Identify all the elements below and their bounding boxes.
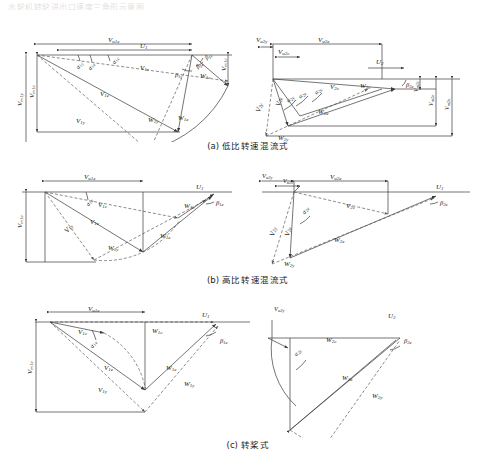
figure-page: 水轮机转轮进出口速度三角形示意图 <box>0 0 496 463</box>
label-b-w1y: W1y <box>108 244 119 252</box>
label-w1y: W1y <box>148 116 159 124</box>
label-b-w1e: W1e <box>160 232 171 240</box>
label-vm1y: Vm1y <box>16 93 24 106</box>
label-vu1e: Vu1e <box>108 36 120 44</box>
label-vm2e: Vm2e <box>428 95 435 106</box>
page-header-faint: 水轮机转轮进出口速度三角形示意图 <box>8 1 488 10</box>
label-alpha2c: α2c <box>313 86 323 96</box>
caption-a-tag: (a) <box>207 141 219 151</box>
label-b-w2e: W2e <box>334 236 345 244</box>
label-c-vu2y: Vu2y <box>274 305 284 313</box>
label-b-vm1e: Vm1e <box>16 215 24 228</box>
caption-c: (c) 转桨式 <box>0 438 496 450</box>
label-b-w2y: W2y <box>284 260 295 268</box>
label-c-w1e: W1e <box>166 364 177 372</box>
caption-b-tag: (b) <box>207 275 219 285</box>
label-b-v1y: V1y <box>63 222 75 235</box>
label-b-v1e: V1e <box>90 218 100 226</box>
label-beta1y: β1y <box>174 72 182 79</box>
label-beta2e: β2e <box>405 81 414 89</box>
label-b-beta2e: β2e <box>439 199 448 207</box>
label-b-vu2y: Vu2y <box>262 172 272 180</box>
caption-b-text: 高比转速混流式 <box>222 275 289 285</box>
label-c-beta2e: β2e <box>403 337 412 345</box>
label-c-beta1e: β1e <box>219 337 228 345</box>
label-alpha1e: α1e <box>87 62 97 72</box>
label-alpha1y: α1y <box>75 61 85 71</box>
panel-c-kaplan: Vu1e Vm1e U1 V1c V1e V1y W1c W1e W1y α1e… <box>0 300 496 438</box>
caption-a: (a) 低比转速混流式 <box>0 139 496 151</box>
label-w1c: W1c <box>200 72 211 80</box>
label-alpha1c: α1c <box>111 56 121 66</box>
label-v1e: V1e <box>100 90 110 98</box>
label-vu2c: Vu2c <box>278 48 290 56</box>
panel-b-high-specific-speed: Vu1e Vm1e U1 V1c V1e V1y W1c W1e W1y α1e… <box>0 160 496 272</box>
label-vm1e: Vm1e <box>28 85 36 98</box>
label-c-u2: U2 <box>388 312 396 320</box>
label-vm2y: Vm2y <box>444 99 451 110</box>
label-c-u1: U1 <box>202 311 210 319</box>
label-v2e: V2e <box>274 95 285 107</box>
label-c-vu1e: Vu1e <box>88 305 100 313</box>
label-c-vm1e: Vm1e <box>26 361 34 374</box>
caption-a-text: 低比转速混流式 <box>222 141 289 151</box>
label-vu2y: Vu2y <box>256 36 268 44</box>
label-w2e: W2e <box>318 108 329 116</box>
label-b-alpha1e: α1e <box>85 198 95 208</box>
caption-b: (b) 高比转速混流式 <box>0 273 496 285</box>
caption-c-tag: (c) <box>227 440 238 450</box>
label-b-vu2c: Vu2c <box>283 178 293 185</box>
label-b-vu1e: Vu1e <box>84 173 96 181</box>
label-c-v1y: V1y <box>98 386 108 394</box>
label-v1y: V1y <box>76 117 86 125</box>
label-vu2e: Vu2e <box>318 36 330 44</box>
label-c-w2e: W2e <box>342 374 353 382</box>
label-b-alpha2e: α2e <box>301 206 311 216</box>
label-v1c: V1c <box>140 64 150 72</box>
label-b-v2c: V2c <box>346 202 356 210</box>
label-vm2c: Vm2c <box>413 81 420 92</box>
label-c-w1c: W1c <box>152 327 163 335</box>
label-c-alpha2e: α2e <box>293 348 303 358</box>
label-b-w1c: W1c <box>184 202 195 210</box>
label-b-u1: U1 <box>196 183 204 191</box>
panel-a-low-specific-speed: Vu1e U1 Vm1y Vm1e Vm1c V1c V1e V1y W1c W… <box>0 14 496 142</box>
label-v2y: V2y <box>254 101 265 113</box>
label-c-alpha1e: α1e <box>89 340 99 350</box>
caption-c-text: 转桨式 <box>241 440 270 450</box>
label-u1: U1 <box>140 42 148 50</box>
label-c-w2y: W2y <box>372 392 383 400</box>
label-c-w2c: W2c <box>326 336 337 344</box>
label-u2: U2 <box>376 58 384 66</box>
label-vm1c: Vm1c <box>220 58 228 71</box>
label-w1e: W1e <box>178 114 189 122</box>
label-c-w1y: W1y <box>184 380 195 388</box>
label-b-vu2e: Vu2e <box>330 173 342 181</box>
label-b-v1c: V1c <box>98 201 108 209</box>
label-beta1c: β1c <box>203 52 214 63</box>
label-c-v1e: V1e <box>104 364 114 372</box>
label-w2c: W2c <box>360 82 371 90</box>
label-b-u1r: U1 <box>436 183 444 191</box>
label-b-beta1e: β1e <box>215 199 224 207</box>
label-b-v2y: V2y <box>268 225 278 236</box>
